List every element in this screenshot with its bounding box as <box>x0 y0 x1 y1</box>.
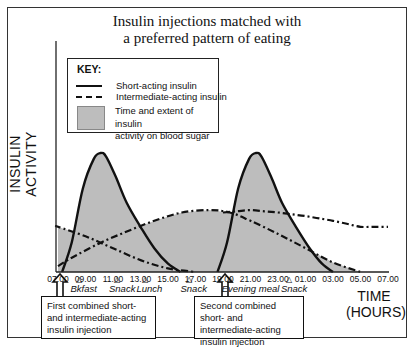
x-axis-label: TIME (HOURS) <box>346 288 402 320</box>
second-injection-callout: Second combined short- and intermediate-… <box>194 296 304 339</box>
meal-label: Bkfast <box>71 283 97 294</box>
x-axis-label-line-1: TIME <box>346 288 402 304</box>
x-tick-label: 03.00 <box>322 274 343 284</box>
meal-label: Evening meal <box>222 283 280 294</box>
x-tick-label: 05.00 <box>350 274 371 284</box>
dashdot-line-swatch <box>76 96 102 98</box>
legend-title: KEY: <box>77 63 101 75</box>
meal-label: Lunch <box>137 283 163 294</box>
first-injection-callout: First combined short- and intermediate-a… <box>41 296 156 339</box>
legend: KEY: Short-acting insulin Intermediate-a… <box>67 58 219 133</box>
meal-label: Snack <box>181 283 207 294</box>
solid-line-swatch <box>76 85 102 87</box>
x-tick-label: 07.00 <box>377 274 398 284</box>
legend-label: Intermediate-acting insulin <box>116 91 227 102</box>
meal-label: Snack <box>109 283 135 294</box>
legend-label: activity on blood sugar <box>115 130 218 143</box>
x-axis-label-line-2: (HOURS) <box>346 304 402 320</box>
legend-item-activity-area: Time and extent of insulin activity on b… <box>115 105 218 143</box>
legend-label: Short-acting insulin <box>116 80 197 91</box>
meal-label: Snack <box>281 283 307 294</box>
x-tick-label: 07.00 <box>47 274 68 284</box>
legend-label: Time and extent of insulin <box>115 105 218 130</box>
fill-swatch <box>77 106 105 130</box>
